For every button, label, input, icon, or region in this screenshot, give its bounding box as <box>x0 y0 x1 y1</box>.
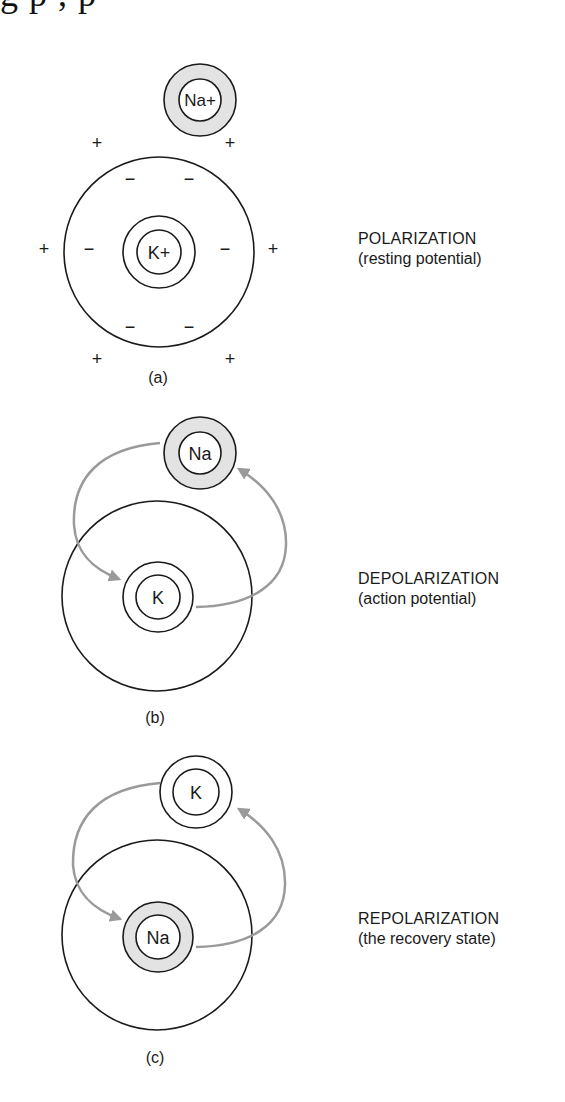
minus-sign-icon: − <box>125 317 136 337</box>
k-ion-inside: K <box>123 562 193 632</box>
na-ion-outside: Na+ <box>164 64 236 136</box>
panel-label-b: (b) <box>145 708 165 728</box>
arrow-na-inflow-icon <box>74 443 160 579</box>
na-ion-symbol: Na <box>146 928 170 948</box>
arrow-na-outflow-icon <box>196 809 285 947</box>
plus-sign-icon: + <box>225 133 236 153</box>
caption-subtitle: (resting potential) <box>358 249 482 269</box>
k-ion-symbol: K+ <box>148 243 171 263</box>
na-ion-symbol: Na+ <box>184 91 216 110</box>
panel-label-c: (c) <box>146 1048 165 1068</box>
panel-a-polarization: Na+ K+ + + + + + + − − − − − − <box>39 64 279 369</box>
k-ion-outside: K <box>160 756 232 828</box>
minus-sign-icon: − <box>84 239 95 259</box>
caption-subtitle: (action potential) <box>358 589 499 609</box>
k-ion-inside: K+ <box>123 216 195 288</box>
plus-sign-icon: + <box>39 239 50 259</box>
na-ion-symbol: Na <box>188 444 212 464</box>
caption-title: DEPOLARIZATION <box>358 569 499 589</box>
arrow-k-inflow-icon <box>73 783 160 919</box>
k-ion-symbol: K <box>190 783 202 803</box>
na-ion-outside: Na <box>164 417 236 489</box>
na-ion-inside: Na <box>123 902 193 972</box>
panel-c-repolarization: K Na <box>62 756 285 1030</box>
panel-b-depolarization: Na K <box>62 417 286 691</box>
caption-title: REPOLARIZATION <box>358 909 499 929</box>
plus-sign-icon: + <box>92 133 103 153</box>
caption-polarization: POLARIZATION (resting potential) <box>358 229 482 269</box>
plus-sign-icon: + <box>225 349 236 369</box>
minus-sign-icon: − <box>184 169 195 189</box>
caption-repolarization: REPOLARIZATION (the recovery state) <box>358 909 499 949</box>
plus-sign-icon: + <box>92 349 103 369</box>
panel-label-a: (a) <box>148 368 168 388</box>
minus-sign-icon: − <box>125 169 136 189</box>
minus-sign-icon: − <box>184 317 195 337</box>
minus-sign-icon: − <box>220 239 231 259</box>
caption-depolarization: DEPOLARIZATION (action potential) <box>358 569 499 609</box>
arrow-k-outflow-icon <box>196 469 286 607</box>
k-ion-symbol: K <box>152 588 164 608</box>
caption-title: POLARIZATION <box>358 229 482 249</box>
caption-subtitle: (the recovery state) <box>358 929 499 949</box>
plus-sign-icon: + <box>268 239 279 259</box>
